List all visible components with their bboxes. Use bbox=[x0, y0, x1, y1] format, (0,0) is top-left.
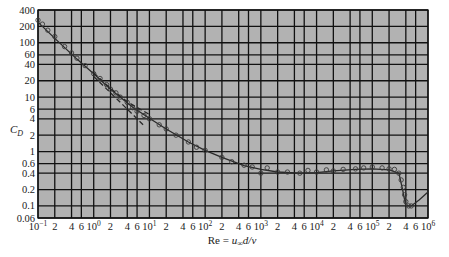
drag-coefficient-chart: 4002001006040201064210.60.40.20.10.06 10… bbox=[0, 0, 449, 257]
y-tick-label: 0.1 bbox=[22, 200, 35, 211]
x-tick-label: 4 bbox=[125, 221, 131, 232]
y-tick-label: 100 bbox=[19, 37, 35, 48]
x-tick-label: 6 bbox=[302, 221, 307, 232]
x-tick-label: 6 bbox=[190, 221, 195, 232]
x-tick-label: 6 bbox=[413, 221, 418, 232]
x-tick-label: 101 bbox=[142, 219, 157, 232]
y-axis-ticks: 4002001006040201064210.60.40.20.10.06 bbox=[17, 5, 36, 224]
x-tick-label: 2 bbox=[164, 221, 169, 232]
x-tick-label: 4 bbox=[292, 221, 298, 232]
x-axis-ticks: 10−1246100246101246102246103246104246105… bbox=[29, 219, 436, 232]
x-tick-label: 2 bbox=[219, 221, 224, 232]
y-tick-label: 2 bbox=[30, 130, 35, 141]
x-tick-label: 104 bbox=[309, 219, 324, 232]
y-tick-label: 20 bbox=[25, 75, 36, 86]
x-tick-label: 4 bbox=[347, 221, 353, 232]
x-tick-label: 100 bbox=[87, 219, 102, 232]
y-tick-label: 0.2 bbox=[22, 184, 35, 195]
y-tick-label: 1 bbox=[30, 146, 35, 157]
plot-background bbox=[38, 10, 428, 218]
y-tick-label: 0.4 bbox=[22, 168, 36, 179]
x-tick-label: 105 bbox=[365, 219, 380, 232]
x-tick-label: 10−1 bbox=[29, 219, 48, 232]
x-axis-label: Re = u∞d/ν bbox=[208, 234, 257, 248]
y-tick-label: 4 bbox=[30, 113, 36, 124]
x-tick-label: 2 bbox=[386, 221, 391, 232]
x-tick-label: 6 bbox=[134, 221, 139, 232]
x-tick-label: 4 bbox=[403, 221, 409, 232]
x-tick-label: 103 bbox=[254, 219, 269, 232]
x-tick-label: 2 bbox=[52, 221, 57, 232]
y-axis-label: CD bbox=[10, 123, 23, 138]
x-tick-label: 102 bbox=[198, 219, 213, 232]
x-tick-label: 2 bbox=[275, 221, 280, 232]
x-tick-label: 6 bbox=[79, 221, 84, 232]
y-tick-label: 40 bbox=[25, 59, 36, 70]
x-tick-label: 6 bbox=[246, 221, 251, 232]
x-tick-label: 4 bbox=[180, 221, 186, 232]
y-tick-label: 10 bbox=[25, 92, 36, 103]
x-tick-label: 4 bbox=[236, 221, 242, 232]
x-tick-label: 2 bbox=[108, 221, 113, 232]
x-tick-label: 2 bbox=[331, 221, 336, 232]
y-tick-label: 200 bbox=[19, 21, 35, 32]
x-tick-label: 106 bbox=[421, 219, 436, 232]
y-tick-label: 400 bbox=[19, 5, 35, 16]
x-tick-label: 6 bbox=[357, 221, 362, 232]
x-tick-label: 4 bbox=[69, 221, 75, 232]
